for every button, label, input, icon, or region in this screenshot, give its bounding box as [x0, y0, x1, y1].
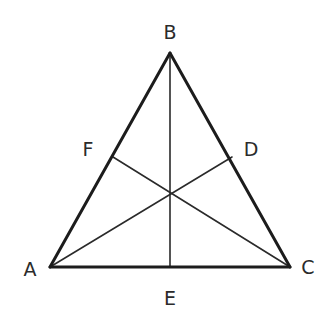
point-label-f: F — [83, 138, 94, 160]
vertex-label-b: B — [163, 21, 176, 43]
point-label-d: D — [244, 138, 259, 160]
side-a-b — [50, 53, 170, 267]
triangle-diagram: A B C D E F — [0, 0, 326, 325]
side-b-c — [170, 53, 290, 267]
vertex-label-a: A — [24, 258, 37, 280]
point-label-e: E — [164, 287, 176, 309]
vertex-label-c: C — [301, 256, 314, 278]
